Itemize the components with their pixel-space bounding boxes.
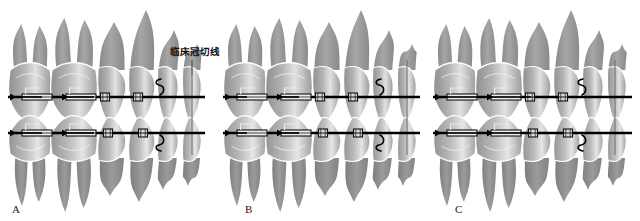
bracket bbox=[139, 129, 148, 137]
bracket bbox=[564, 129, 573, 137]
bracket bbox=[319, 129, 328, 137]
panel-label-c: C bbox=[455, 203, 462, 215]
bracket bbox=[559, 93, 568, 101]
bracket bbox=[101, 93, 110, 101]
orthodontic-anchorage-figure: 临床冠切线 ABC bbox=[0, 0, 640, 221]
clinical-crown-line-label: 临床冠切线 bbox=[170, 46, 220, 57]
bracket bbox=[104, 129, 113, 137]
figure-canvas: 临床冠切线 ABC bbox=[0, 0, 640, 221]
bracket bbox=[349, 93, 358, 101]
bracket bbox=[134, 93, 143, 101]
bracket bbox=[316, 93, 325, 101]
panel-label-b: B bbox=[245, 203, 252, 215]
panel-label-a: A bbox=[12, 203, 20, 215]
bracket bbox=[354, 129, 363, 137]
